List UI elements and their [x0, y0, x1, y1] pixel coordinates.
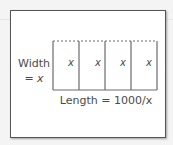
- length-label: Length = 1000/x: [60, 94, 153, 107]
- cell-label: x: [119, 57, 126, 68]
- cell-label: x: [67, 57, 74, 68]
- cell-label: x: [145, 57, 152, 68]
- width-value: = x: [24, 72, 44, 85]
- cell-label: x: [94, 57, 101, 68]
- width-label: Width: [18, 57, 50, 70]
- pen-diagram: x x x x Width = x Length = 1000/x: [0, 0, 173, 145]
